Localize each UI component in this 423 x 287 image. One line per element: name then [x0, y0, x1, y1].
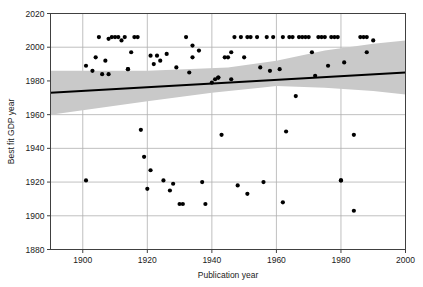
data-point [190, 55, 194, 59]
data-point [278, 67, 282, 71]
data-point [232, 35, 236, 39]
data-point [226, 55, 230, 59]
data-point [187, 70, 191, 74]
x-tick-label: 1940 [202, 255, 221, 265]
data-point [97, 35, 101, 39]
data-point [281, 35, 285, 39]
y-tick-label: 1980 [26, 76, 45, 86]
data-point [268, 69, 272, 73]
data-point [216, 75, 220, 79]
data-point [197, 48, 201, 52]
data-point [313, 74, 317, 78]
data-point [174, 65, 178, 69]
data-point [94, 55, 98, 59]
data-point [126, 67, 130, 71]
data-point [190, 43, 194, 47]
data-point [229, 50, 233, 54]
data-point [310, 50, 314, 54]
y-tick-label: 2020 [26, 9, 45, 19]
data-point [229, 77, 233, 81]
data-point [326, 64, 330, 68]
data-point [342, 60, 346, 64]
data-point [129, 50, 133, 54]
data-point [171, 182, 175, 186]
data-point [336, 35, 340, 39]
data-point [248, 35, 252, 39]
data-point [219, 133, 223, 137]
data-point [365, 35, 369, 39]
data-point [236, 183, 240, 187]
data-point [307, 35, 311, 39]
data-point [271, 35, 275, 39]
data-point [290, 35, 294, 39]
data-point [158, 59, 162, 63]
data-point [148, 54, 152, 58]
y-axis-title: Best fit GDP year [6, 99, 16, 165]
data-point [136, 35, 140, 39]
data-point [200, 180, 204, 184]
data-point [284, 129, 288, 133]
data-point [294, 94, 298, 98]
data-point [90, 69, 94, 73]
data-point [239, 35, 243, 39]
y-tick-label: 1960 [26, 110, 45, 120]
data-point [242, 55, 246, 59]
data-point [168, 188, 172, 192]
data-point [84, 178, 88, 182]
y-tick-label: 1880 [26, 245, 45, 255]
data-point [265, 35, 269, 39]
x-axis-title: Publication year [198, 270, 259, 280]
data-point [255, 35, 259, 39]
data-point [84, 64, 88, 68]
data-point [371, 38, 375, 42]
data-point [352, 133, 356, 137]
data-point [161, 178, 165, 182]
data-point [142, 155, 146, 159]
y-tick-label: 2000 [26, 42, 45, 52]
data-point [258, 65, 262, 69]
data-point [281, 200, 285, 204]
data-point [165, 52, 169, 56]
data-point [245, 192, 249, 196]
y-tick-label: 1940 [26, 143, 45, 153]
data-point [145, 187, 149, 191]
scatter-plot: 1880190019201940196019802000202019001920… [0, 0, 423, 287]
data-point [181, 202, 185, 206]
data-point [261, 180, 265, 184]
y-tick-label: 1920 [26, 177, 45, 187]
x-tick-label: 1900 [73, 255, 92, 265]
x-tick-label: 1920 [138, 255, 157, 265]
data-point [116, 35, 120, 39]
data-point [339, 178, 343, 182]
data-point [139, 128, 143, 132]
data-point [106, 72, 110, 76]
data-point [352, 209, 356, 213]
data-point [365, 50, 369, 54]
data-point [203, 202, 207, 206]
y-tick-label: 1900 [26, 211, 45, 221]
data-point [119, 38, 123, 42]
data-point [148, 168, 152, 172]
data-point [123, 35, 127, 39]
data-point [152, 62, 156, 66]
data-point [103, 59, 107, 63]
data-point [323, 35, 327, 39]
data-point [184, 35, 188, 39]
x-tick-label: 1960 [267, 255, 286, 265]
x-tick-label: 1980 [331, 255, 350, 265]
x-tick-label: 2000 [396, 255, 415, 265]
data-point [155, 54, 159, 58]
chart-figure: 1880190019201940196019802000202019001920… [0, 0, 423, 287]
data-point [100, 72, 104, 76]
data-point [210, 81, 214, 85]
